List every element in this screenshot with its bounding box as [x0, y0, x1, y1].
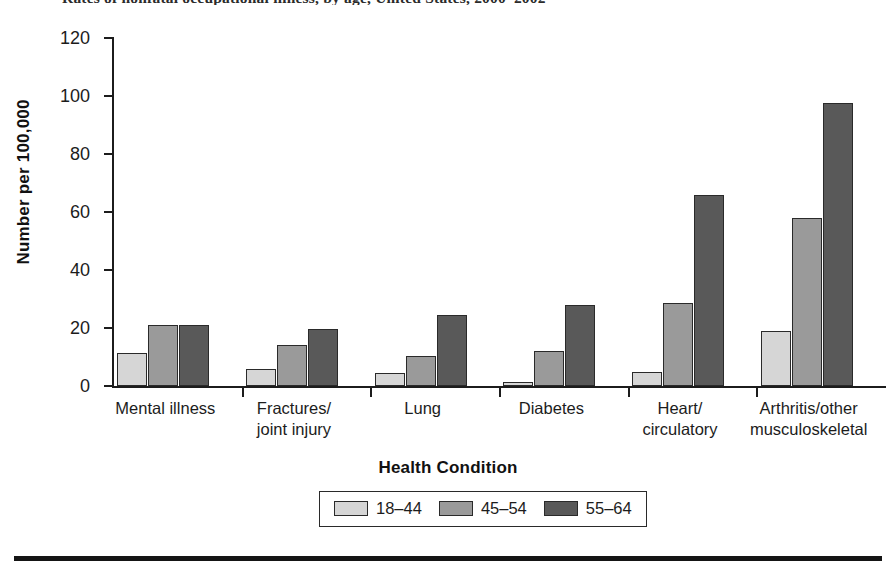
bar: [565, 305, 595, 386]
bar-group: [499, 38, 628, 386]
y-axis-tick-label: 0: [80, 376, 90, 397]
x-axis-category-line: Lung: [358, 398, 487, 419]
legend-swatch: [334, 501, 368, 516]
bar: [761, 331, 791, 386]
y-axis-tick-label: 40: [70, 260, 90, 281]
bar: [792, 218, 822, 386]
y-axis-title: Number per 100,000: [14, 32, 34, 332]
y-axis-tick-label: 20: [70, 318, 90, 339]
x-axis-tick: [370, 388, 372, 397]
y-axis-tick: [104, 327, 113, 329]
bar: [503, 382, 533, 386]
bar: [632, 372, 662, 386]
y-axis-tick-label: 60: [70, 202, 90, 223]
legend-item: 45–54: [439, 499, 527, 518]
bar-group: [113, 38, 242, 386]
legend-swatch: [439, 501, 473, 516]
x-axis-category-line: Arthritis/other: [744, 398, 873, 419]
x-axis-category-label: Heart/circulatory: [616, 398, 745, 440]
legend-label: 18–44: [376, 499, 422, 518]
y-axis-tick-label: 120: [60, 28, 90, 49]
y-axis-tick: [104, 37, 113, 39]
x-axis-category-label: Fractures/joint injury: [230, 398, 359, 440]
bar: [308, 329, 338, 386]
bar: [663, 303, 693, 386]
bar: [437, 315, 467, 386]
legend-swatch: [544, 501, 578, 516]
bar: [375, 373, 405, 386]
x-axis-category-line: musculoskeletal: [744, 419, 873, 440]
bar: [694, 195, 724, 386]
x-axis-tick: [242, 388, 244, 397]
y-axis-tick: [104, 211, 113, 213]
y-axis-tick-label: 80: [70, 144, 90, 165]
x-axis-tick: [756, 388, 758, 397]
legend-label: 55–64: [586, 499, 632, 518]
bar: [823, 103, 853, 386]
legend-item: 18–44: [334, 499, 422, 518]
bar-group: [242, 38, 371, 386]
x-axis-category-label: Diabetes: [487, 398, 616, 419]
y-axis-tick: [104, 269, 113, 271]
bar: [117, 353, 147, 386]
bar: [534, 351, 564, 386]
x-axis-title: Health Condition: [0, 458, 896, 478]
bar: [179, 325, 209, 386]
x-axis-category-line: Diabetes: [487, 398, 616, 419]
x-axis-category-line: Heart/: [616, 398, 745, 419]
y-axis-tick: [104, 95, 113, 97]
bar: [277, 345, 307, 386]
y-axis-tick: [104, 385, 113, 387]
legend-label: 45–54: [481, 499, 527, 518]
x-axis-category-line: Fractures/: [230, 398, 359, 419]
x-axis-category-label: Lung: [358, 398, 487, 419]
y-axis-tick: [104, 153, 113, 155]
y-axis-tick-label: 100: [60, 86, 90, 107]
bar-group: [370, 38, 499, 386]
x-axis-category-line: circulatory: [616, 419, 745, 440]
bar-group: [756, 38, 885, 386]
bottom-rule: [14, 556, 882, 561]
plot-area: [113, 38, 885, 386]
bar: [406, 356, 436, 386]
x-axis-tick: [628, 388, 630, 397]
legend-item: 55–64: [544, 499, 632, 518]
x-axis-category-line: joint injury: [230, 419, 359, 440]
chart-title: Rates of nonfatal occupational illness, …: [62, 0, 762, 5]
bar: [246, 369, 276, 386]
x-axis-category-label: Arthritis/othermusculoskeletal: [744, 398, 873, 440]
chart-legend: 18–4445–5455–64: [319, 491, 647, 527]
bar: [148, 325, 178, 386]
bar-group: [628, 38, 757, 386]
x-axis-category-line: Mental illness: [101, 398, 230, 419]
x-axis-category-label: Mental illness: [101, 398, 230, 419]
x-axis-tick: [499, 388, 501, 397]
